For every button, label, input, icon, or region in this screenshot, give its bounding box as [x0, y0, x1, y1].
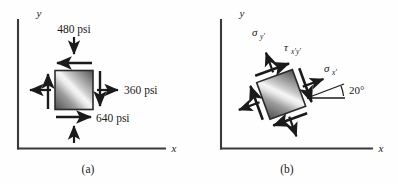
- panel-a-x-axis-label: x: [171, 142, 177, 154]
- angle-indicator: [307, 84, 345, 98]
- tau-prime-base: τ: [284, 41, 289, 53]
- sigma-x-value-label: 360 psi: [124, 84, 158, 97]
- angle-inclined-line: [307, 84, 344, 98]
- stress-element-square: [55, 71, 93, 110]
- sigma-y-prime-base: σ: [252, 26, 258, 38]
- sigma-y-prime-sub: y′: [259, 32, 265, 41]
- panel-a-y-axis-label: y: [36, 7, 42, 19]
- panel-b-y-axis-label: y: [239, 7, 245, 19]
- angle-value-label: 20°: [349, 84, 364, 96]
- angle-arc: [341, 86, 344, 96]
- sigma-x-prime-label: σ x′: [324, 62, 337, 77]
- tau-x-prime-y-prime-label: τ x′y′: [284, 41, 301, 56]
- panel-b: y x σ y′: [220, 7, 384, 176]
- panel-a-caption: (a): [82, 163, 95, 176]
- rotated-stress-element-square: [257, 70, 306, 120]
- tau-xy-value-label: 640 psi: [96, 112, 130, 125]
- sigma-y-value-label: 480 psi: [57, 23, 91, 36]
- panel-a: y x 480 psi 360 psi 640 psi (a): [17, 7, 177, 176]
- rotated-element-group: [224, 37, 339, 151]
- figure-canvas: y x 480 psi 360 psi 640 psi (a): [0, 0, 398, 184]
- sigma-y-prime-label: σ y′: [252, 26, 265, 41]
- panel-b-caption: (b): [280, 163, 294, 176]
- sigma-x-prime-sub: x′: [331, 68, 337, 77]
- panel-b-x-axis-label: x: [378, 142, 384, 154]
- sigma-x-prime-base: σ: [324, 62, 330, 74]
- tau-prime-sub: x′y′: [290, 47, 301, 56]
- stress-element-figure: y x 480 psi 360 psi 640 psi (a): [0, 0, 398, 184]
